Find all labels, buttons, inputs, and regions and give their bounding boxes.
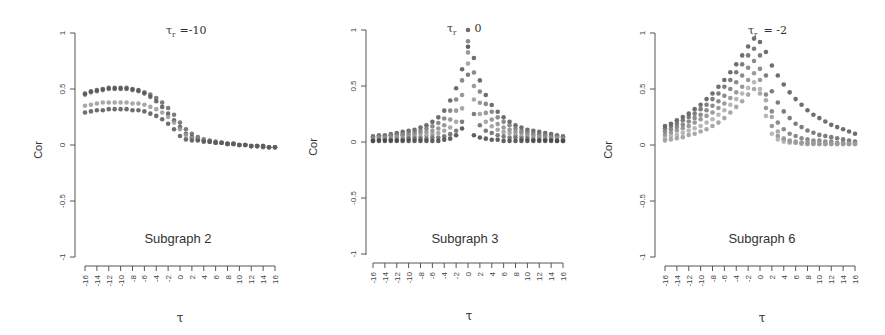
data-point xyxy=(466,45,471,50)
data-point xyxy=(799,140,804,145)
x-tick-label: 14 xyxy=(259,274,268,283)
x-tick-label: -6 xyxy=(720,274,729,282)
data-point xyxy=(472,133,477,138)
x-tick-label: 12 xyxy=(535,271,544,280)
x-tick-label: -16 xyxy=(369,271,378,283)
data-point xyxy=(101,87,106,92)
data-point xyxy=(764,106,769,111)
data-point xyxy=(770,115,775,120)
subgraph-label: Subgraph 6 xyxy=(728,231,795,246)
data-point xyxy=(389,139,394,144)
data-point xyxy=(112,107,117,112)
x-tick-label: -16 xyxy=(81,274,90,286)
data-point xyxy=(136,101,141,106)
x-tick-label: 16 xyxy=(559,271,568,280)
x-tick-label: -6 xyxy=(428,271,437,279)
data-point xyxy=(160,105,165,110)
data-point xyxy=(495,122,500,127)
data-point xyxy=(525,139,530,144)
x-tick-label: -6 xyxy=(140,274,149,282)
data-point xyxy=(154,107,159,112)
data-point xyxy=(722,116,727,121)
chart-title: τr0 xyxy=(447,22,481,37)
data-point xyxy=(501,130,506,135)
x-tick-label: -8 xyxy=(709,274,718,282)
data-point xyxy=(781,109,786,114)
x-tick-label: 8 xyxy=(224,274,233,279)
data-point xyxy=(728,102,733,107)
data-point xyxy=(734,97,739,102)
x-tick-label: 12 xyxy=(247,274,256,283)
data-point xyxy=(207,139,212,144)
y-tick-label: 0 xyxy=(349,139,358,144)
data-point xyxy=(776,100,781,105)
data-point xyxy=(555,139,560,144)
data-point xyxy=(118,100,123,105)
data-points xyxy=(371,28,566,143)
data-point xyxy=(758,78,763,83)
data-point xyxy=(213,140,218,145)
data-point xyxy=(805,142,810,147)
data-point xyxy=(829,135,834,140)
data-point xyxy=(835,125,840,130)
x-tick-label: 10 xyxy=(523,271,532,280)
data-points xyxy=(663,36,858,146)
data-point xyxy=(710,91,715,96)
data-point xyxy=(460,106,465,111)
y-tick-label: 0.5 xyxy=(638,83,647,95)
data-point xyxy=(124,100,129,105)
data-point xyxy=(166,106,171,111)
data-point xyxy=(448,132,453,137)
data-point xyxy=(472,84,477,89)
data-point xyxy=(478,112,483,117)
data-point xyxy=(484,120,489,125)
data-point xyxy=(442,116,447,121)
x-tick-label: -12 xyxy=(685,274,694,286)
data-point xyxy=(460,126,465,131)
data-point xyxy=(758,40,763,45)
data-point xyxy=(746,78,751,83)
x-tick-label: -12 xyxy=(105,274,114,286)
scatter-plot: -1-0.500.51 -16-14-12-10-8-6-4-202468101… xyxy=(590,0,885,335)
x-tick-label: 10 xyxy=(815,274,824,283)
data-point xyxy=(722,93,727,98)
title-value: =-10 xyxy=(179,24,206,37)
data-point xyxy=(377,139,382,144)
data-point xyxy=(764,92,769,97)
data-point xyxy=(184,137,189,142)
data-point xyxy=(495,133,500,138)
data-point xyxy=(740,73,745,78)
data-point xyxy=(436,126,441,131)
title-value: = -2 xyxy=(763,24,786,37)
data-point xyxy=(728,70,733,75)
data-point xyxy=(740,99,745,104)
data-point xyxy=(489,103,494,108)
data-point xyxy=(190,138,195,143)
data-point xyxy=(835,142,840,147)
data-point xyxy=(136,88,141,93)
data-point xyxy=(454,133,459,138)
data-point xyxy=(752,87,757,92)
data-point xyxy=(83,104,88,109)
data-point xyxy=(406,139,411,144)
data-point xyxy=(478,123,483,128)
chart-panel-subgraph-3: -1-0.500.51 -16-14-12-10-8-6-4-202468101… xyxy=(295,0,590,335)
data-point xyxy=(734,80,739,85)
data-point xyxy=(442,137,447,142)
data-point xyxy=(829,123,834,128)
data-point xyxy=(781,82,786,87)
data-point xyxy=(519,139,524,144)
x-axis-label: τ xyxy=(759,311,766,325)
data-point xyxy=(669,137,674,142)
data-point xyxy=(436,115,441,120)
data-point xyxy=(728,87,733,92)
data-point xyxy=(823,119,828,124)
data-point xyxy=(472,97,477,102)
data-point xyxy=(201,139,206,144)
data-point xyxy=(752,80,757,85)
data-point xyxy=(118,86,123,91)
data-point xyxy=(460,93,465,98)
data-point xyxy=(448,125,453,130)
x-tick-label: 4 xyxy=(488,271,497,276)
x-tick-label: -4 xyxy=(732,274,741,282)
